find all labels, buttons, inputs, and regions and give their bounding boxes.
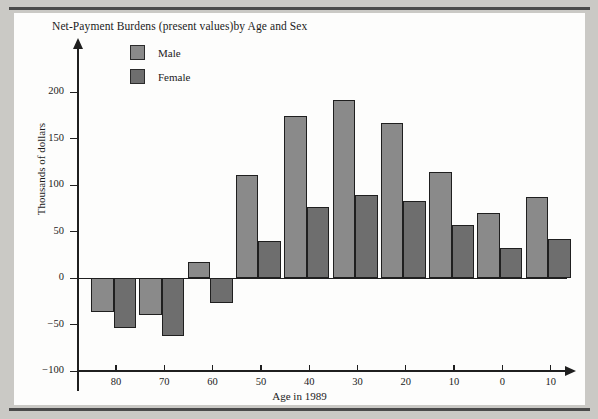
y-axis-label: Thousands of dollars	[35, 79, 47, 259]
bar-female-age-0	[548, 239, 571, 278]
y-axis-tick-label: 0	[20, 271, 64, 282]
figure-paper: Net-Payment Burdens (present values)by A…	[14, 13, 585, 405]
bar-male-age-35	[333, 100, 356, 279]
bottom-rule-divider	[9, 408, 590, 411]
bar-chart: Net-Payment Burdens (present values)by A…	[14, 13, 585, 405]
bar-male-age-25	[381, 123, 404, 278]
bar-female-age-5	[500, 248, 523, 279]
screenshot-page: Net-Payment Burdens (present values)by A…	[0, 0, 598, 419]
bar-female-age-35	[355, 195, 378, 279]
bar-female-age-85	[114, 278, 137, 327]
x-axis-label: Age in 1989	[14, 390, 585, 402]
bar-male-age-85	[91, 278, 114, 311]
bar-male-age-55	[236, 175, 259, 278]
y-axis-tick-label: −50	[20, 318, 64, 329]
top-rule-divider	[9, 7, 590, 10]
y-axis-tick-label: −100	[20, 364, 64, 375]
bar-female-age-45	[307, 207, 330, 279]
bar-female-age-65	[210, 278, 233, 303]
bar-male-age-15	[429, 172, 452, 278]
bar-male-age-75	[139, 278, 162, 315]
bar-male-age-45	[284, 116, 307, 278]
bar-male-age-0	[526, 197, 549, 278]
bar-female-age-25	[403, 201, 426, 278]
bar-female-age-55	[258, 241, 281, 278]
bar-male-age-65	[188, 262, 211, 278]
bar-male-age-5	[477, 213, 500, 278]
bars-container	[77, 13, 567, 405]
bar-female-age-75	[162, 278, 185, 336]
bar-female-age-15	[452, 225, 475, 278]
